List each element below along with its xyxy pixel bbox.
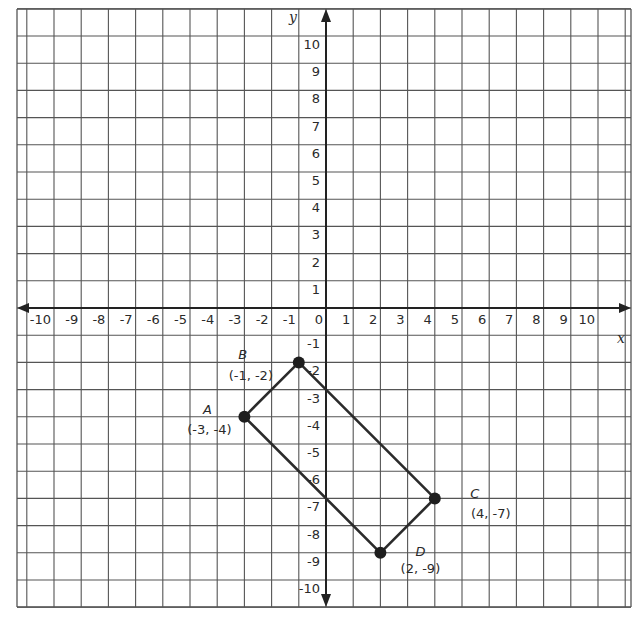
x-tick-label: 9 <box>560 312 568 327</box>
x-tick-label: 0 <box>315 312 323 327</box>
x-tick-label: -4 <box>201 312 214 327</box>
x-tick-label: 7 <box>505 312 513 327</box>
point-marker <box>238 411 250 423</box>
x-axis-label: x <box>617 330 625 346</box>
y-tick-label: 9 <box>312 64 320 79</box>
vertex-name: C <box>470 486 480 501</box>
vertex-a: A(-3, -4) <box>187 402 250 437</box>
vertex-name: B <box>238 347 247 362</box>
y-tick-label: -1 <box>307 336 320 351</box>
x-tick-label: 6 <box>478 312 486 327</box>
vertex-name: D <box>415 544 425 559</box>
point-marker <box>429 492 441 504</box>
x-tick-label: -10 <box>30 312 51 327</box>
y-tick-label: -4 <box>307 418 320 433</box>
x-tick-label: -8 <box>92 312 105 327</box>
y-tick-label: 1 <box>312 282 320 297</box>
y-tick-label: -9 <box>307 554 320 569</box>
x-tick-label: -3 <box>228 312 241 327</box>
coordinate-plane: xy-10-9-8-7-6-5-4-3-2-1012345678910-10-9… <box>0 0 635 622</box>
y-tick-label: 10 <box>303 37 320 52</box>
y-tick-label: 3 <box>312 227 320 242</box>
y-tick-label: -7 <box>307 499 320 514</box>
vertex-coordinates: (-3, -4) <box>187 422 231 437</box>
x-tick-label: 5 <box>451 312 459 327</box>
point-marker <box>374 547 386 559</box>
vertex-c: C(4, -7) <box>429 486 511 521</box>
y-tick-label: -10 <box>299 581 320 596</box>
axes <box>17 9 631 607</box>
x-tick-label: -1 <box>283 312 296 327</box>
y-tick-label: 6 <box>312 146 320 161</box>
vertex-b: B(-1, -2) <box>229 347 305 383</box>
y-tick-label: 8 <box>312 91 320 106</box>
x-tick-label: 4 <box>424 312 432 327</box>
x-tick-label: 1 <box>342 312 350 327</box>
rectangle-abcd <box>244 362 434 552</box>
y-tick-label: 2 <box>312 255 320 270</box>
x-tick-label: -9 <box>65 312 78 327</box>
x-tick-label: 8 <box>532 312 540 327</box>
y-tick-label: 7 <box>312 119 320 134</box>
y-tick-label: -8 <box>307 527 320 542</box>
vertex-coordinates: (2, -9) <box>401 561 441 576</box>
x-tick-label: 3 <box>396 312 404 327</box>
x-tick-label: -7 <box>120 312 133 327</box>
vertex-coordinates: (-1, -2) <box>229 368 273 383</box>
y-axis-label: y <box>288 9 298 25</box>
x-tick-label: -5 <box>174 312 187 327</box>
point-marker <box>293 356 305 368</box>
x-tick-label: -2 <box>256 312 269 327</box>
y-tick-label: -3 <box>307 391 320 406</box>
x-tick-label: 2 <box>369 312 377 327</box>
vertex-coordinates: (4, -7) <box>471 506 511 521</box>
vertex-name: A <box>202 402 212 417</box>
x-tick-label: 10 <box>578 312 595 327</box>
y-tick-label: -5 <box>307 445 320 460</box>
y-tick-label: 5 <box>312 173 320 188</box>
x-tick-label: -6 <box>147 312 160 327</box>
y-tick-label: 4 <box>312 200 320 215</box>
tick-labels: xy-10-9-8-7-6-5-4-3-2-1012345678910-10-9… <box>30 9 625 596</box>
